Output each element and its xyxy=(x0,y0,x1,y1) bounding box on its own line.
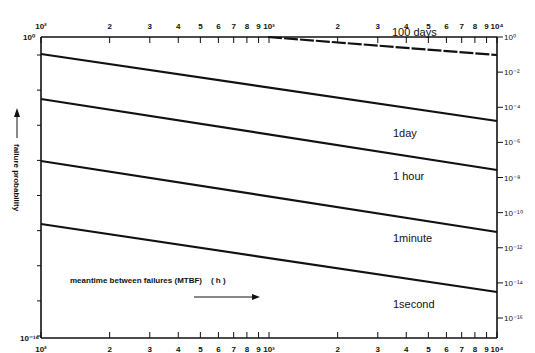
x-tick-label: 3 xyxy=(376,345,381,353)
y-tick-label: 10⁻² xyxy=(504,68,520,77)
y-tick-label: 10⁻⁶ xyxy=(504,138,520,147)
x-tick-label: 8 xyxy=(245,345,250,353)
x-tick-label: 10⁴ xyxy=(491,345,504,353)
x-tick-label: 3 xyxy=(148,22,153,31)
x-tick-label: 8 xyxy=(473,345,478,353)
x-axis-label: meantime between failures (MTBF) ( h ) xyxy=(70,276,226,285)
x-tick-label: 4 xyxy=(176,345,181,353)
x-tick-label: 5 xyxy=(426,345,431,353)
x-axis-arrow xyxy=(194,294,260,300)
line-100-days xyxy=(268,37,497,55)
x-tick-label: 9 xyxy=(484,345,489,353)
label-1-second: 1second xyxy=(393,298,435,310)
x-tick-label: 6 xyxy=(444,22,449,31)
label-1-day: 1day xyxy=(393,127,417,139)
x-tick-label: 9 xyxy=(256,345,261,353)
y-tick-label: 10⁻⁴ xyxy=(504,103,521,112)
x-tick-label: 2 xyxy=(335,22,340,31)
x-tick-label: 9 xyxy=(484,22,489,31)
x-tick-label: 2 xyxy=(107,345,112,353)
x-tick-label: 5 xyxy=(198,345,203,353)
y-left-top-label: 10⁰ xyxy=(23,33,36,42)
label-1-hour: 1 hour xyxy=(393,170,425,182)
x-tick-label: 5 xyxy=(198,22,203,31)
x-tick-label: 4 xyxy=(404,22,409,31)
x-tick-label: 7 xyxy=(231,345,236,353)
y-tick-label: 10⁻¹⁴ xyxy=(504,279,524,288)
x-axis-ticks xyxy=(41,37,497,338)
x-tick-label: 6 xyxy=(216,345,221,353)
x-tick-label: 7 xyxy=(459,22,464,31)
y-left-bottom-label: 10⁻¹⁶ xyxy=(20,334,40,343)
line-1-minute xyxy=(41,161,497,232)
x-tick-label: 10³ xyxy=(263,345,275,353)
x-tick-label: 7 xyxy=(459,345,464,353)
series-lines xyxy=(41,37,497,292)
x-tick-label: 10³ xyxy=(263,22,275,31)
x-tick-label: 5 xyxy=(426,22,431,31)
x-tick-label: 3 xyxy=(376,22,381,31)
x-tick-label: 10⁴ xyxy=(491,22,504,31)
x-tick-label: 8 xyxy=(473,22,478,31)
y-tick-label: 10⁻¹² xyxy=(504,244,523,253)
x-tick-label: 3 xyxy=(148,345,153,353)
plot-frame xyxy=(41,37,497,338)
x-tick-label: 6 xyxy=(444,345,449,353)
chart: 100 days 1day 1 hour 1minute 1second mea… xyxy=(0,0,535,353)
x-tick-label: 9 xyxy=(256,22,261,31)
x-tick-label: 10² xyxy=(35,345,47,353)
y-axis-arrow xyxy=(14,108,20,138)
y-tick-label: 10⁻¹⁰ xyxy=(504,209,523,218)
y-tick-label: 10⁰ xyxy=(504,33,516,42)
x-tick-label: 10² xyxy=(35,22,47,31)
x-tick-label: 4 xyxy=(176,22,181,31)
y-tick-label: 10⁻¹⁶ xyxy=(504,314,523,323)
x-axis-labels-bottom: 10²2345678910³2345678910⁴ xyxy=(35,345,503,353)
label-1-minute: 1minute xyxy=(393,232,432,244)
y-axis-ticks xyxy=(37,37,503,336)
y-axis-labels-right: 10⁰10⁻²10⁻⁴10⁻⁶10⁻⁸10⁻¹⁰10⁻¹²10⁻¹⁴10⁻¹⁶ xyxy=(504,33,524,323)
x-tick-label: 2 xyxy=(335,345,340,353)
x-tick-label: 8 xyxy=(245,22,250,31)
x-tick-label: 2 xyxy=(107,22,112,31)
y-tick-label: 10⁻⁸ xyxy=(504,174,520,183)
x-tick-label: 4 xyxy=(404,345,409,353)
line-1-day xyxy=(41,54,497,121)
line-1-hour xyxy=(41,99,497,170)
x-tick-label: 7 xyxy=(231,22,236,31)
y-axis-label: failure probability xyxy=(12,144,21,212)
x-tick-label: 6 xyxy=(216,22,221,31)
